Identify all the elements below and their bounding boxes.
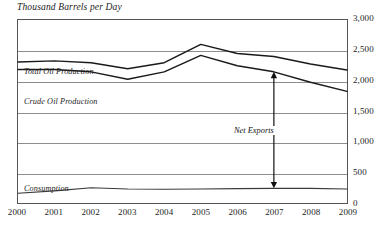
- y-tick-label-2500: 2,500: [353, 44, 374, 54]
- net-exports-arrowhead-top: [271, 72, 277, 78]
- y-tick-label-1500: 1,500: [353, 106, 374, 116]
- x-tick-label-2007: 2007: [265, 207, 283, 217]
- x-tick-label-2002: 2002: [81, 207, 99, 217]
- x-tick-label-2000: 2000: [8, 207, 26, 217]
- y-tick-label-1000: 1,000: [353, 136, 374, 146]
- y-tick-label-3000: 3,000: [353, 13, 374, 23]
- net-exports-arrowhead-bottom: [271, 182, 277, 188]
- x-tick-label-2001: 2001: [45, 207, 63, 217]
- plot-area: Total Oil Production Crude Oil Productio…: [17, 19, 348, 204]
- x-tick-label-2005: 2005: [192, 207, 210, 217]
- chart-page: Thousand Barrels per Day Total Oil Produ…: [0, 0, 392, 235]
- page-title: Thousand Barrels per Day: [17, 2, 122, 12]
- y-tick-label-500: 500: [353, 167, 367, 177]
- x-tick-label-2008: 2008: [302, 207, 320, 217]
- x-tick-label-2003: 2003: [118, 207, 136, 217]
- y-tick-label-2000: 2,000: [353, 75, 374, 85]
- x-tick-label-2004: 2004: [155, 207, 173, 217]
- x-tick-label-2006: 2006: [228, 207, 246, 217]
- net-exports-annotation: [18, 20, 347, 203]
- net-exports-label: Net Exports: [232, 126, 276, 135]
- x-tick-label-2009: 2009: [339, 207, 357, 217]
